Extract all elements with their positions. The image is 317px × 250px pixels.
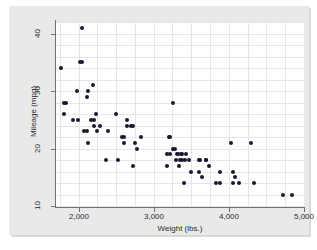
- gridline-vertical: [210, 22, 211, 206]
- y-axis-line: [55, 20, 56, 208]
- scatter-point: [92, 118, 96, 122]
- scatter-point: [168, 135, 172, 139]
- scatter-point: [71, 118, 75, 122]
- scatter-point: [197, 170, 201, 174]
- x-axis-line: [55, 207, 305, 208]
- scatter-point: [165, 164, 169, 168]
- y-axis-tick: [51, 91, 55, 92]
- gridline-vertical: [229, 22, 230, 206]
- graph-region: 10203040 2,0003,0004,0005,000 Mileage (m…: [9, 6, 309, 235]
- scatter-point: [139, 135, 143, 139]
- scatter-point: [233, 175, 237, 179]
- scatter-point: [91, 83, 95, 87]
- gridline-vertical: [248, 22, 249, 206]
- y-axis-title: Mileage (mpg): [29, 52, 38, 172]
- scatter-point: [80, 26, 84, 30]
- scatter-point: [125, 118, 129, 122]
- scatter-point: [133, 141, 137, 145]
- scatter-point: [189, 170, 193, 174]
- gridline-vertical: [266, 22, 267, 206]
- scatter-point: [231, 181, 235, 185]
- plot-area: [56, 22, 304, 206]
- scatter-point: [85, 95, 89, 99]
- scatter-point: [173, 147, 177, 151]
- y-axis-tick-label: 40: [33, 23, 42, 45]
- y-axis-tick: [51, 149, 55, 150]
- scatter-point: [204, 158, 208, 162]
- gridline-vertical: [285, 22, 286, 206]
- gridline-vertical: [60, 22, 61, 206]
- scatter-point: [187, 158, 191, 162]
- y-axis-tick: [51, 34, 55, 35]
- scatter-point: [218, 181, 222, 185]
- scatter-point: [237, 181, 241, 185]
- gridline-vertical: [191, 22, 192, 206]
- scatter-point: [200, 175, 204, 179]
- scatter-point: [80, 60, 84, 64]
- scatter-point: [94, 112, 98, 116]
- x-axis-tick-label: 4,000: [209, 212, 249, 221]
- x-axis-tick-label: 5,000: [284, 212, 317, 221]
- scatter-point: [122, 141, 126, 145]
- scatter-point: [64, 101, 68, 105]
- scatter-point: [180, 152, 184, 156]
- scatter-point: [229, 141, 233, 145]
- scatter-point: [177, 164, 181, 168]
- chart-screenshot: 10203040 2,0003,0004,0005,000 Mileage (m…: [0, 0, 317, 250]
- x-axis-title: Weight (lbs.): [56, 224, 304, 233]
- scatter-point: [198, 158, 202, 162]
- scatter-point: [98, 124, 102, 128]
- scatter-point: [182, 181, 186, 185]
- scatter-point: [135, 147, 139, 151]
- scatter-point: [116, 158, 120, 162]
- scatter-point: [86, 89, 90, 93]
- scatter-point: [114, 112, 118, 116]
- scatter-point: [252, 181, 256, 185]
- y-axis-tick: [51, 206, 55, 207]
- gridline-vertical: [154, 22, 155, 206]
- scatter-point: [106, 129, 110, 133]
- scatter-point: [249, 141, 253, 145]
- scatter-point: [231, 170, 235, 174]
- scatter-point: [75, 89, 79, 93]
- gridline-vertical: [79, 22, 80, 206]
- scatter-point: [85, 129, 89, 133]
- scatter-point: [171, 101, 175, 105]
- scatter-point: [290, 193, 294, 197]
- gridline-vertical: [172, 22, 173, 206]
- y-axis-tick-label: 10: [33, 195, 42, 217]
- scatter-point: [62, 112, 66, 116]
- gridline-vertical: [135, 22, 136, 206]
- x-axis-tick-label: 3,000: [134, 212, 174, 221]
- scatter-point: [131, 124, 135, 128]
- scatter-point: [281, 193, 285, 197]
- scatter-point: [59, 66, 63, 70]
- scatter-point: [184, 152, 188, 156]
- scatter-point: [86, 141, 90, 145]
- scatter-point: [122, 135, 126, 139]
- scatter-point: [92, 124, 96, 128]
- scatter-point: [95, 129, 99, 133]
- scatter-point: [218, 170, 222, 174]
- x-axis-tick-label: 2,000: [59, 212, 99, 221]
- scatter-point: [104, 158, 108, 162]
- scatter-point: [76, 118, 80, 122]
